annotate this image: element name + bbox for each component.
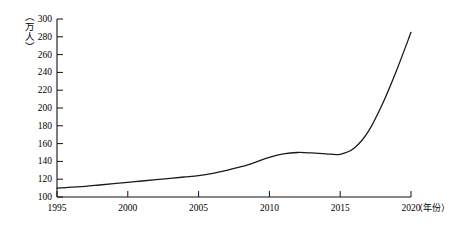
data-series-line: [57, 32, 411, 188]
x-tick-label: 2010: [239, 203, 299, 213]
x-tick-label: 2015: [310, 203, 370, 213]
y-tick-label: 260: [22, 50, 52, 60]
x-tick-label: 2005: [169, 203, 229, 213]
y-tick-label: 220: [22, 85, 52, 95]
chart-plot-area: [0, 0, 476, 230]
y-tick-label: 180: [22, 121, 52, 131]
y-tick-label: 240: [22, 67, 52, 77]
x-tick-label: 2000: [98, 203, 158, 213]
y-tick-label: 140: [22, 156, 52, 166]
y-tick-label: 100: [22, 192, 52, 202]
y-tick-label: 160: [22, 139, 52, 149]
y-tick-label: 200: [22, 103, 52, 113]
x-axis-ticks: [57, 191, 411, 197]
population-line-chart: （万人）: [0, 0, 476, 230]
y-axis-ticks: [57, 19, 63, 197]
y-tick-label: 280: [22, 32, 52, 42]
x-axis-unit-label: （年份）: [414, 203, 450, 213]
y-tick-label: 120: [22, 174, 52, 184]
x-tick-label: 1995: [27, 203, 87, 213]
y-tick-label: 300: [22, 14, 52, 24]
